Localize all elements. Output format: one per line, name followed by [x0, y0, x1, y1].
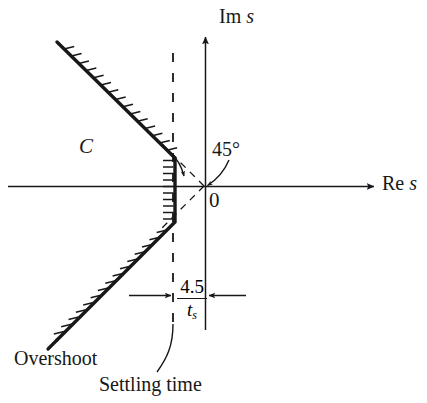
angle-label: 45° — [212, 139, 240, 159]
hatching-vertical-segment — [163, 161, 174, 220]
pole-region-figure: Im s Re s 0 C 45° Overshoot Settling tim… — [0, 0, 427, 403]
hatching-lower-diagonal — [54, 230, 167, 334]
settling-time-label-leader — [157, 324, 173, 372]
real-axis-label-roman: Re — [382, 172, 404, 194]
denominator-subscript: s — [192, 308, 197, 322]
angle-label-leader — [208, 160, 230, 186]
settling-time-denominator: ts — [176, 300, 208, 321]
imaginary-axis-label-roman: Im — [219, 5, 241, 27]
overshoot-label: Overshoot — [14, 348, 97, 368]
imaginary-axis-label-italic: s — [246, 5, 254, 27]
real-axis-label-italic: s — [409, 172, 417, 194]
origin-label: 0 — [209, 190, 220, 211]
settling-time-expression: 4.5 ts — [176, 277, 208, 321]
settling-time-label: Settling time — [99, 374, 202, 394]
settling-time-numerator: 4.5 — [176, 277, 208, 297]
region-label-c: C — [79, 136, 93, 157]
real-axis-label: Re s — [382, 173, 417, 193]
imaginary-axis-label: Im s — [219, 6, 254, 26]
